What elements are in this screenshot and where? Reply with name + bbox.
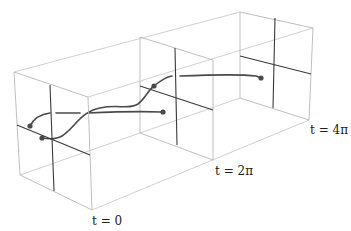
- trajectory-a-start-dot: [27, 123, 32, 128]
- label-t2pi: t = 2π: [215, 164, 253, 178]
- time-evolution-diagram: t = 0 t = 2π t = 4π: [0, 0, 351, 231]
- label-t4pi: t = 4π: [310, 123, 348, 137]
- trajectory-b-mid-dot: [151, 83, 156, 88]
- label-t0: t = 0: [92, 214, 122, 228]
- frame-t2pi: [140, 37, 213, 160]
- trajectory-a-end-dot: [160, 109, 165, 114]
- trajectory-b-end: [180, 75, 261, 78]
- trajectory-a: [30, 113, 50, 126]
- trajectory-b-end-dot: [258, 75, 263, 80]
- frame-t4pi: [240, 12, 313, 120]
- trajectory-a-end: [88, 112, 162, 113]
- frame-t0: [14, 72, 92, 210]
